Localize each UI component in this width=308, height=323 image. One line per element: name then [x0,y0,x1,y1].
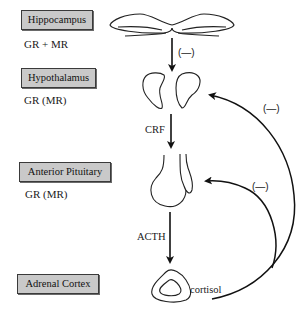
hypothalamus-receptors: GR (MR) [24,94,66,106]
adrenal-cortex-label-box: Adrenal Cortex [17,274,99,294]
feedback-hypothalamus-label: (—) [263,103,280,114]
feedback-pituitary-label: (—) [252,181,269,192]
anterior-pituitary-receptors: GR (MR) [25,188,67,200]
acth-label: ACTH [137,231,166,242]
anterior-pituitary-label: Anterior Pituitary [28,166,102,177]
feedback-arc-pituitary [206,181,276,268]
pituitary-shape [151,154,193,207]
hippocampus-label: Hippocampus [28,14,86,25]
feedback-arc-hypothalamus [210,95,295,299]
hypothalamus-label-box: Hypothalamus [21,68,96,88]
hypothalamus-shape [143,73,200,109]
hypothalamus-label: Hypothalamus [28,72,89,83]
hippocampus-receptors: GR + MR [24,38,68,50]
adrenal-shape [152,270,191,302]
adrenal-cortex-label: Adrenal Cortex [25,278,90,289]
hippocampus-inhibition-label: (—) [178,47,195,58]
hippocampus-label-box: Hippocampus [21,10,93,30]
hippocampus-shape [110,14,234,36]
anterior-pituitary-label-box: Anterior Pituitary [19,162,111,182]
crf-label: CRF [145,124,165,135]
cortisol-label: cortisol [190,284,222,295]
